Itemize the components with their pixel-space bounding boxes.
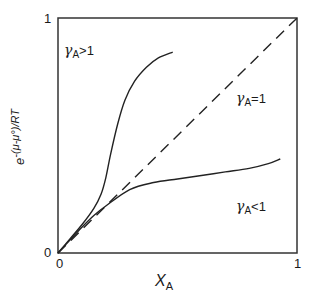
annotation-gamma-greater: γA>1 bbox=[64, 44, 94, 61]
annotation-gamma-equal: γA=1 bbox=[236, 92, 266, 109]
y-tick-1: 1 bbox=[44, 12, 51, 25]
y-tick-0: 0 bbox=[44, 246, 51, 259]
x-axis-label: XA bbox=[155, 272, 173, 292]
y-axis-label: e-(μ-μ°)/RT bbox=[9, 109, 27, 165]
series-line-0 bbox=[58, 52, 173, 253]
annotation-gamma-less: γA<1 bbox=[236, 200, 266, 217]
x-tick-1: 1 bbox=[294, 257, 301, 270]
x-tick-0: 0 bbox=[56, 257, 63, 270]
